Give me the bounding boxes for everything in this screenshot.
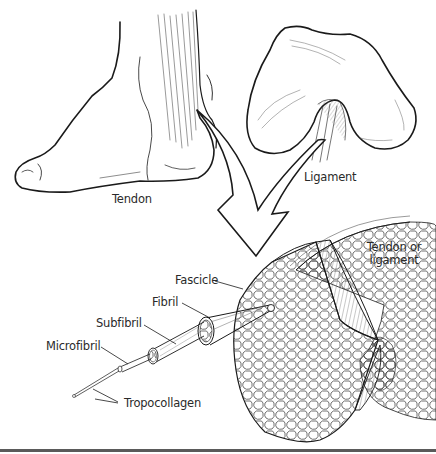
microfibril-structure	[118, 354, 151, 372]
label-tropocollagen: Tropocollagen	[124, 397, 201, 410]
diagram-canvas: Tendon Ligament Tendon or ligament Fasci…	[0, 0, 436, 454]
subfibril-structure	[148, 322, 204, 364]
label-tendon-or-ligament-line1: Tendon or	[367, 240, 422, 254]
label-microfibril: Microfibril	[46, 340, 100, 353]
label-fascicle: Fascicle	[175, 274, 218, 287]
foot-illustration	[15, 10, 216, 192]
tropocollagen-structure	[73, 368, 120, 398]
label-tendon-or-ligament: Tendon or ligament	[364, 241, 424, 267]
label-fibril: Fibril	[152, 296, 178, 309]
label-tendon: Tendon	[112, 193, 152, 206]
label-subfibril: Subfibril	[96, 317, 142, 330]
illustration	[0, 0, 436, 454]
label-ligament: Ligament	[304, 171, 356, 184]
ligament-illustration	[247, 26, 416, 162]
bottom-divider	[0, 449, 436, 452]
label-tendon-or-ligament-line2: ligament	[369, 253, 418, 267]
